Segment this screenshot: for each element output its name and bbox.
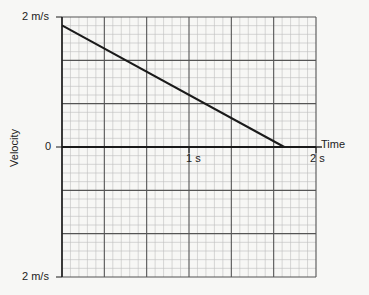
y-tick-top-label: 2 m/s — [22, 10, 49, 22]
x-tick-2s-label: 2 s — [310, 152, 325, 164]
x-tick-1s-label: 1 s — [186, 152, 201, 164]
y-axis-label: Velocity — [8, 129, 20, 167]
velocity-time-graph — [0, 0, 369, 295]
y-tick-bottom-label: 2 m/s — [22, 270, 49, 282]
x-axis-label: Time — [321, 138, 345, 150]
y-tick-zero-label: 0 — [45, 140, 51, 152]
